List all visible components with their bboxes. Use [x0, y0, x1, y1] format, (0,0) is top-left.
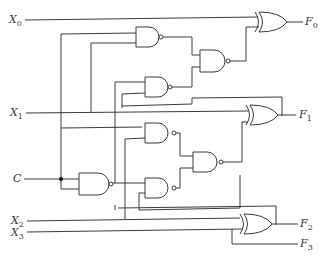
wire-mid1-out: [176, 133, 193, 156]
nand-gate-top-out: [200, 50, 230, 72]
xor-gate-f1: [246, 105, 278, 125]
wire-x1-branch-top: [91, 43, 136, 112]
wire-mid2-out: [176, 168, 193, 188]
input-label-c: C: [13, 173, 21, 184]
nand-gate-mid-2: [145, 178, 176, 198]
nand-gate-top-1: [136, 27, 163, 47]
wire-c-bus-mid: [61, 127, 142, 128]
output-label-f3: F3: [300, 238, 313, 252]
input-label-x1: X1: [10, 107, 23, 121]
xor-gate-f0: [255, 12, 287, 32]
wire-x2: [27, 218, 240, 221]
output-label-f1: F1: [299, 109, 312, 123]
wire-topout-to-xor0: [230, 27, 259, 61]
nand-gate-mid-1: [145, 123, 176, 143]
output-label-f2: F2: [300, 218, 313, 232]
input-label-x3: X3: [11, 227, 24, 241]
wire-c-to-nand: [61, 179, 79, 189]
input-label-x0: X0: [9, 14, 22, 28]
nand-gate-mid-out: [193, 152, 223, 172]
wire-top1-out: [163, 37, 200, 55]
circuit-svg: [0, 0, 321, 256]
nand-gate-top-2: [145, 77, 172, 97]
output-label-f0: F0: [305, 16, 318, 30]
wire-midout-to-xor1: [223, 122, 248, 162]
wire-x1: [26, 111, 248, 113]
wire-top2-out: [172, 67, 200, 87]
nand-gate-c: [79, 173, 113, 195]
junction-dot: [59, 177, 63, 181]
xor-gate-f2: [240, 214, 272, 234]
wire-nc-bus-top: [115, 82, 145, 183]
wire-x0: [25, 17, 258, 20]
wire-x2-branch: [125, 138, 145, 219]
logic-circuit-diagram: X0 X1 C X2 X3 F0 F1 F2 F3: [0, 0, 321, 256]
wire-x3: [27, 229, 242, 232]
